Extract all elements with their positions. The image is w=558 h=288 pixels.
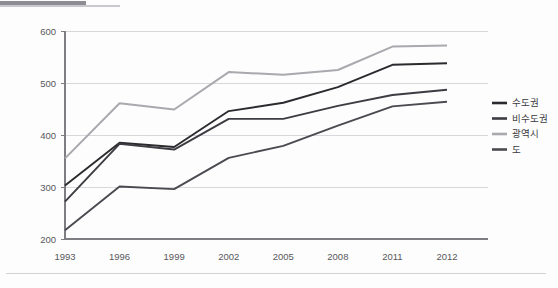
line-chart-plot: 200300400500600 199319961999200220052008… [0, 0, 558, 288]
y-tick-label-200: 200 [40, 234, 56, 245]
series-line-3 [65, 102, 447, 230]
x-tick-label-2002: 2002 [218, 251, 239, 262]
series-line-0 [65, 63, 447, 185]
series-line-2 [65, 46, 447, 159]
x-tick-label-1996: 1996 [109, 251, 130, 262]
x-tick-label-2008: 2008 [327, 251, 348, 262]
gridlines-group [65, 31, 488, 239]
legend-label-2: 광역시 [512, 128, 539, 139]
x-tick-label-1993: 1993 [54, 251, 75, 262]
chart-container: 200300400500600 199319961999200220052008… [0, 0, 558, 288]
y-tick-label-500: 500 [40, 78, 56, 89]
chart-legend: 수도권비수도권광역시도 [492, 97, 548, 155]
data-series-group [65, 46, 447, 231]
x-tick-label-2012: 2012 [436, 251, 457, 262]
x-tick-label-1999: 1999 [164, 251, 185, 262]
legend-label-1: 비수도권 [512, 113, 548, 124]
x-axis-tick-labels: 19931996199920022005200820112012 [54, 251, 457, 262]
y-tick-label-600: 600 [40, 26, 56, 37]
y-axis-tick-labels: 200300400500600 [40, 26, 56, 245]
x-tick-label-2005: 2005 [273, 251, 294, 262]
y-tick-label-400: 400 [40, 130, 56, 141]
legend-label-3: 도 [512, 144, 521, 155]
x-tick-label-2011: 2011 [382, 251, 402, 262]
legend-label-0: 수도권 [512, 97, 539, 108]
y-tick-label-300: 300 [40, 182, 56, 193]
